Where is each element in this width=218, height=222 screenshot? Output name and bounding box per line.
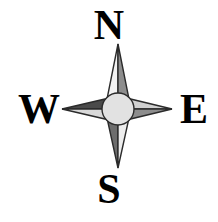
direction-label-west: W [18,88,60,130]
direction-label-east: E [180,88,208,130]
direction-label-south: S [0,168,218,210]
direction-label-north: N [0,4,218,46]
compass-rose-figure: N E S W [0,0,218,222]
compass-hub-circle [102,93,134,125]
